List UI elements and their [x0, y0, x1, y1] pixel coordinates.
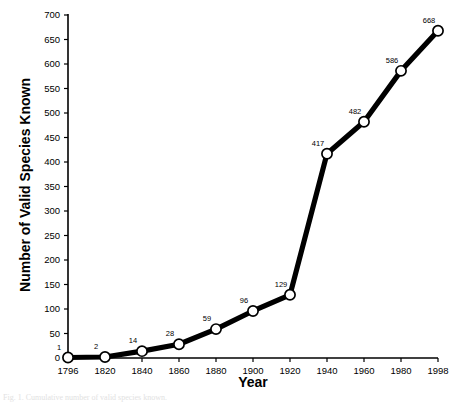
y-axis-tick-label: 350	[44, 181, 60, 192]
data-point-label: 96	[240, 296, 248, 305]
data-point-label: 129	[275, 280, 288, 289]
y-axis-tick-label: 150	[44, 279, 60, 290]
data-point-label: 59	[203, 314, 211, 323]
y-axis-tick-label: 450	[44, 132, 60, 143]
figure-container: 0501001502002503003504004505005506006507…	[0, 0, 456, 406]
data-point-marker	[433, 26, 443, 36]
data-point-label: 668	[423, 16, 436, 25]
x-axis-title-text: Year	[238, 374, 268, 390]
y-axis-title: Number of Valid Species Known	[16, 55, 36, 315]
data-point-marker	[359, 117, 369, 127]
data-point-marker	[248, 306, 258, 316]
data-point-marker	[285, 290, 295, 300]
data-point-marker	[322, 149, 332, 159]
figure-caption: Fig. 1. Cumulative number of valid speci…	[3, 393, 203, 406]
data-point-label: 586	[386, 56, 399, 65]
data-point-marker	[100, 352, 110, 362]
y-axis-tick-label: 600	[44, 58, 60, 69]
data-point-label: 2	[94, 342, 98, 351]
data-point-label: 482	[349, 107, 362, 116]
y-axis-title-text: Number of Valid Species Known	[17, 78, 33, 292]
y-axis-tick-label: 500	[44, 107, 60, 118]
y-axis-tick-label: 650	[44, 34, 60, 45]
data-point-label: 417	[312, 139, 325, 148]
y-axis: 0501001502002503003504004505005506006507…	[44, 9, 68, 363]
data-point-marker	[211, 324, 221, 334]
y-axis-tick-label: 100	[44, 303, 60, 314]
x-axis-title: Year	[68, 373, 438, 393]
y-axis-tick-label: 250	[44, 230, 60, 241]
y-axis-tick-label: 550	[44, 83, 60, 94]
y-axis-tick-label: 0	[55, 352, 60, 363]
y-axis-tick-label: 50	[49, 328, 60, 339]
y-axis-tick-label: 300	[44, 205, 60, 216]
data-point-marker	[137, 346, 147, 356]
data-point-marker	[174, 339, 184, 349]
data-point-label: 1	[57, 343, 61, 352]
y-axis-tick-label: 700	[44, 9, 60, 20]
y-axis-tick-label: 200	[44, 254, 60, 265]
data-point-labels: 1214285996129417482586668	[57, 16, 435, 352]
line-chart: 0501001502002503003504004505005506006507…	[0, 0, 456, 406]
data-point-markers	[63, 26, 443, 363]
data-point-label: 28	[166, 329, 174, 338]
y-axis-tick-label: 400	[44, 156, 60, 167]
data-point-marker	[396, 66, 406, 76]
data-point-marker	[63, 352, 73, 362]
data-point-label: 14	[129, 336, 137, 345]
